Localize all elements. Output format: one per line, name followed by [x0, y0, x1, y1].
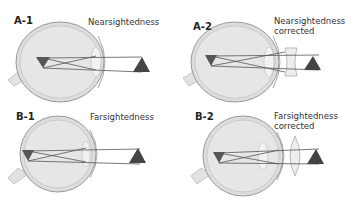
panel-label: A-1 [14, 15, 33, 26]
eye-diagram-farsighted [0, 108, 179, 215]
panel-caption-line2: corrected [274, 26, 314, 36]
panel-caption-line2: corrected [274, 121, 314, 131]
panel-caption: Nearsightedness [274, 16, 345, 26]
panel-caption: Nearsightedness [88, 17, 159, 27]
panel-a1-nearsightedness: A-1 Nearsightedness [0, 0, 179, 107]
panel-caption: Farsightedness [90, 112, 154, 122]
object-triangle-icon [307, 149, 324, 164]
panel-label: A-2 [193, 21, 212, 32]
panel-label: B-1 [16, 111, 35, 122]
object-triangle-icon [129, 148, 146, 163]
panel-caption: Farsightedness [274, 111, 338, 121]
panel-b2-farsightedness-corrected: B-2 Farsightedness corrected [179, 108, 358, 215]
object-triangle-icon [304, 56, 321, 70]
panel-a2-nearsightedness-corrected: A-2 Nearsightedness corrected [179, 0, 358, 107]
convex-lens-icon [290, 136, 300, 176]
eye-diagram-farsighted-corrected [179, 108, 358, 215]
object-triangle-icon [133, 57, 150, 72]
panel-b1-farsightedness: B-1 Farsightedness [0, 108, 179, 215]
panel-label: B-2 [195, 111, 214, 122]
concave-lens-icon [285, 48, 297, 76]
